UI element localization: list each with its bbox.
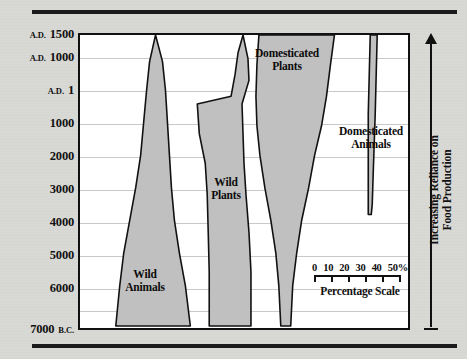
pct-label-20: 20 — [339, 262, 349, 273]
ruler-tick — [348, 275, 350, 282]
y-tick-value: 4000 — [50, 215, 74, 229]
pct-label-10: 10 — [323, 262, 333, 273]
ruler-tick — [399, 275, 401, 282]
y-tick-prefix: A.D. — [30, 53, 46, 63]
y-tick-value: 6000 — [50, 281, 74, 295]
percentage-scale: 0 10 20 30 40 50% Percentage Scale — [312, 262, 408, 297]
band-label-line1: Wild — [110, 268, 180, 281]
band-label-line2: Plants — [193, 189, 259, 202]
band-label-domesticated-animals: Domesticated Animals — [323, 125, 419, 150]
band-label-wild-plants: Wild Plants — [193, 176, 259, 201]
band-label-line1: Wild — [193, 176, 259, 189]
bottom-rule — [32, 344, 457, 348]
band-label-line2: Plants — [239, 60, 335, 73]
band-label-line2: Animals — [323, 138, 419, 151]
pct-label-40: 40 — [372, 262, 382, 273]
right-axis-caption: Increasing Reliance on Food Production — [428, 120, 454, 260]
y-tick-3000: 3000 — [50, 180, 74, 196]
right-axis-caption-line1: Increasing Reliance on — [428, 120, 441, 260]
y-tick-value: 3000 — [50, 182, 74, 196]
y-tick-prefix: A.D. — [30, 30, 46, 40]
y-tick-value: 1 — [68, 83, 74, 97]
y-tick-value: 5000 — [50, 248, 74, 262]
y-tick-value: 1500 — [50, 27, 74, 41]
pct-label-0: 0 — [312, 262, 317, 273]
y-tick-1000: 1000 — [50, 114, 74, 130]
y-axis: A.D. 1500 A.D. 1000 A.D. 1 1000 2000 300… — [0, 33, 74, 330]
ruler-baseline — [314, 275, 400, 277]
y-tick-value: 1000 — [50, 50, 74, 64]
y-tick-7000-bc: 7000 B.C. — [30, 320, 74, 336]
ruler-tick — [331, 275, 333, 282]
y-tick-2000: 2000 — [50, 147, 74, 163]
band-label-domesticated-plants: Domesticated Plants — [239, 47, 335, 72]
top-rule — [32, 10, 457, 14]
right-axis-caption-line2: Food Production — [441, 120, 454, 260]
percentage-scale-caption: Percentage Scale — [312, 284, 408, 297]
band-label-line1: Domesticated — [239, 47, 335, 60]
band-label-wild-animals: Wild Animals — [110, 268, 180, 293]
pct-label-30: 30 — [356, 262, 366, 273]
y-tick-4000: 4000 — [50, 213, 74, 229]
y-tick-ad-1: A.D. 1 — [48, 81, 74, 97]
y-tick-6000: 6000 — [50, 279, 74, 295]
y-tick-value: 1000 — [50, 116, 74, 130]
percentage-scale-ruler — [312, 275, 408, 284]
ruler-tick — [382, 275, 384, 282]
y-tick-value: 7000 — [30, 322, 54, 336]
band-label-line2: Animals — [110, 281, 180, 294]
y-tick-value: 2000 — [50, 149, 74, 163]
plot-right-border — [408, 33, 410, 330]
ruler-tick — [314, 275, 316, 282]
pct-label-50: 50% — [388, 262, 408, 273]
band-label-line1: Domesticated — [323, 125, 419, 138]
y-tick-ad-1000: A.D. 1000 — [30, 48, 74, 64]
y-tick-ad-1500: A.D. 1500 — [30, 25, 74, 41]
y-tick-prefix: A.D. — [48, 86, 64, 96]
percentage-scale-numbers: 0 10 20 30 40 50% — [312, 262, 408, 275]
y-tick-suffix: B.C. — [58, 325, 74, 335]
figure-root: A.D. 1500 A.D. 1000 A.D. 1 1000 2000 300… — [0, 0, 467, 359]
ruler-tick — [365, 275, 367, 282]
arrow-foot — [424, 328, 438, 330]
y-tick-5000: 5000 — [50, 246, 74, 262]
